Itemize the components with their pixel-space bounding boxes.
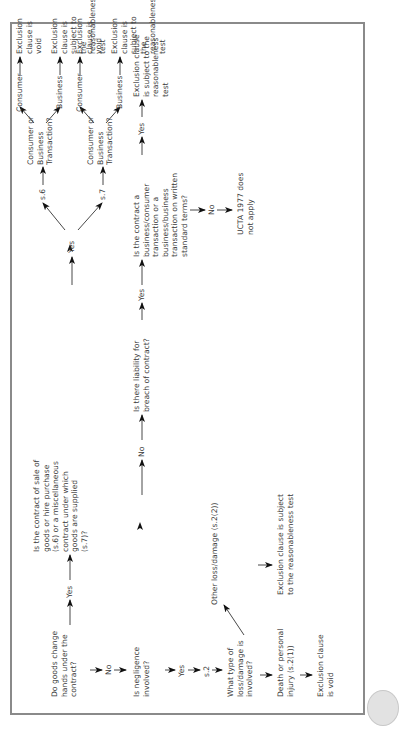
- outcome-void: Exclusion clause is void: [75, 18, 104, 54]
- label-no: No: [104, 665, 114, 675]
- node-written-terms: Is the contract a business/consumer tran…: [132, 173, 190, 257]
- node-loss-type: What type of loss/damage is involved?: [226, 640, 255, 697]
- label-consumer: Consumer: [75, 73, 85, 112]
- node-consumer-business-1: Consumer or Business Transaction?: [26, 116, 55, 165]
- label-business: Business: [115, 76, 125, 110]
- node-death-injury: Death or personal injury (s.2(1)): [276, 629, 295, 697]
- outcome-reasonableness: Exclusion clause is subject to the reaso…: [132, 34, 170, 97]
- outcome-ucta-not-apply: UCTA 1977 does not apply: [236, 173, 255, 235]
- node-breach: Is there liability for breach of contrac…: [132, 338, 151, 412]
- arrow-connectors: [10, 22, 365, 715]
- label-yes: Yes: [67, 241, 77, 253]
- label-yes: Yes: [65, 586, 75, 598]
- label-s6: s.6: [38, 189, 48, 200]
- label-yes: Yes: [137, 123, 147, 135]
- label-yes: Yes: [137, 289, 147, 301]
- node-contract-type: Is the contract of sale of goods or hire…: [32, 460, 90, 552]
- label-s2: s.2: [202, 666, 212, 677]
- node-consumer-business-2: Consumer or Business Transaction?: [86, 116, 115, 165]
- node-goods-change: Do goods change hands under the contract…: [50, 631, 79, 697]
- label-no: No: [137, 447, 147, 457]
- label-s7: s.7: [98, 189, 108, 200]
- outcome-void: Exclusion clause is void: [316, 634, 335, 697]
- label-no: No: [207, 205, 217, 215]
- page-tab-circle: [367, 690, 399, 726]
- node-negligence: Is negligence involved?: [132, 647, 151, 697]
- label-consumer: Consumer: [15, 73, 25, 112]
- label-yes: Yes: [177, 665, 187, 677]
- outcome-void: Exclusion clause is void: [15, 18, 44, 54]
- label-business: Business: [55, 76, 65, 110]
- flowchart-canvas: Do goods change hands under the contract…: [10, 22, 365, 715]
- outcome-reasonableness: Exclusion clause is subject to the reaso…: [276, 494, 295, 595]
- node-other-loss: Other loss/damage (s.2(2)): [210, 502, 220, 605]
